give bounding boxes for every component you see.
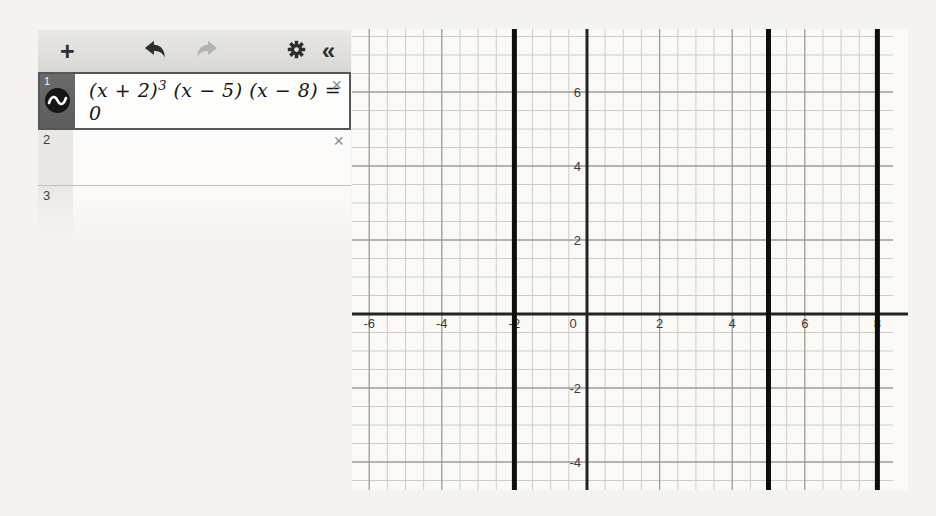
- y-axis-tick-label: -4: [569, 455, 581, 470]
- x-axis-tick-label: -4: [436, 316, 448, 331]
- gear-icon: [287, 40, 306, 62]
- delete-expression-button[interactable]: ×: [331, 76, 342, 94]
- x-axis-tick-label: -6: [363, 316, 375, 331]
- expression-input[interactable]: [73, 186, 351, 244]
- expression-row-1: 1 (x + 2)3 (x − 5) (x − 8) = 0 ×: [38, 72, 351, 130]
- y-axis-tick-label: 2: [574, 233, 581, 248]
- expression-number: 2: [43, 132, 50, 147]
- expression-row-3: 3: [38, 186, 351, 244]
- redo-icon: [194, 40, 220, 62]
- settings-button[interactable]: [283, 38, 310, 64]
- x-axis-tick-label: 4: [729, 316, 736, 331]
- y-axis-tick-label: -2: [569, 381, 581, 396]
- add-expression-button[interactable]: +: [56, 37, 79, 66]
- exponent: 3: [158, 78, 167, 93]
- x-axis-tick-label: 6: [801, 316, 808, 331]
- graph-grid: -6-4-202468642-2-4: [352, 29, 908, 490]
- undo-button[interactable]: [138, 38, 172, 64]
- expression-number: 1: [44, 75, 50, 87]
- x-axis-tick-label: 0: [569, 316, 576, 331]
- y-axis-tick-label: 4: [574, 159, 581, 174]
- redo-button[interactable]: [190, 38, 224, 64]
- equation-text: (x + 2)3 (x − 5) (x − 8) = 0: [89, 78, 349, 123]
- double-chevron-left-icon: «: [322, 39, 335, 63]
- y-axis-tick-label: 6: [574, 85, 581, 100]
- expression-row-2: 2 ×: [38, 130, 351, 186]
- expression-number: 3: [43, 188, 50, 203]
- expression-gutter: 3: [38, 186, 73, 244]
- expression-input[interactable]: ×: [73, 130, 351, 185]
- expression-gutter: 2: [38, 130, 73, 185]
- expressions-toolbar: +: [38, 30, 351, 72]
- app-window: +: [0, 0, 936, 516]
- expression-panel: +: [38, 30, 351, 244]
- expression-input[interactable]: (x + 2)3 (x − 5) (x − 8) = 0 ×: [75, 74, 349, 128]
- undo-icon: [142, 40, 168, 62]
- graph-canvas[interactable]: -6-4-202468642-2-4: [352, 29, 908, 490]
- delete-expression-button[interactable]: ×: [333, 132, 344, 150]
- x-axis-tick-label: 2: [656, 316, 663, 331]
- collapse-panel-button[interactable]: «: [318, 37, 339, 65]
- expression-type-tile[interactable]: 1: [40, 74, 75, 128]
